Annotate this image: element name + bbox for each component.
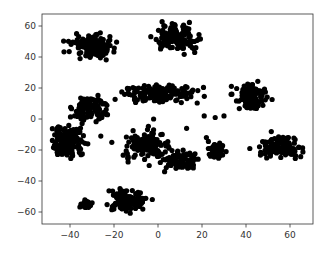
scatter-point: [135, 148, 140, 153]
scatter-point: [249, 85, 254, 90]
scatter-point: [206, 146, 211, 151]
scatter-point: [293, 137, 298, 142]
x-tick-label: 40: [240, 230, 252, 240]
scatter-point: [175, 148, 180, 153]
scatter-point: [119, 89, 124, 94]
scatter-point: [109, 140, 114, 145]
scatter-point: [263, 151, 268, 156]
scatter-point: [126, 206, 131, 211]
scatter-point: [145, 127, 150, 132]
scatter-point: [81, 117, 86, 122]
scatter-point: [75, 114, 80, 119]
scatter-point: [98, 30, 103, 35]
scatter-point: [93, 32, 98, 37]
scatter-point: [81, 133, 86, 138]
scatter-point: [62, 126, 67, 131]
scatter-point: [151, 127, 156, 132]
scatter-point: [246, 95, 251, 100]
scatter-point: [78, 152, 83, 157]
scatter-point: [278, 155, 283, 160]
scatter-point: [237, 106, 242, 111]
scatter-point: [152, 93, 157, 98]
scatter-point: [265, 95, 270, 100]
scatter-point: [131, 128, 136, 133]
scatter-point: [174, 29, 179, 34]
scatter-point: [244, 88, 249, 93]
scatter-point: [100, 37, 105, 42]
scatter-point: [61, 39, 66, 44]
scatter-point: [111, 207, 116, 212]
scatter-point: [78, 56, 83, 61]
scatter-point: [283, 144, 288, 149]
scatter-point: [224, 149, 229, 154]
scatter-point: [98, 113, 103, 118]
scatter-point: [153, 150, 158, 155]
scatter-point: [247, 146, 252, 151]
scatter-point: [158, 97, 163, 102]
scatter-point: [234, 86, 239, 91]
scatter-point: [79, 44, 84, 49]
scatter-point: [119, 206, 124, 211]
scatter-point: [58, 125, 63, 130]
scatter-point: [113, 97, 118, 102]
scatter-point: [195, 100, 200, 105]
scatter-point: [176, 36, 181, 41]
scatter-point: [221, 113, 226, 118]
scatter-point: [160, 19, 165, 24]
scatter-point: [142, 157, 147, 162]
scatter-point: [202, 94, 207, 99]
scatter-point: [133, 100, 138, 105]
scatter-point: [68, 114, 73, 119]
scatter-point: [80, 139, 85, 144]
scatter-point: [182, 88, 187, 93]
scatter-point: [107, 34, 112, 39]
scatter-point: [269, 137, 274, 142]
scatter-point: [213, 144, 218, 149]
scatter-point: [62, 149, 67, 154]
scatter-point: [98, 134, 103, 139]
scatter-point: [184, 126, 189, 131]
scatter-point: [181, 148, 186, 153]
scatter-point: [166, 144, 171, 149]
scatter-point: [234, 98, 239, 103]
x-tick-label: −40: [61, 230, 80, 240]
scatter-point: [142, 132, 147, 137]
scatter-point: [204, 135, 209, 140]
scatter-point: [105, 42, 110, 47]
y-tick-label: 60: [25, 21, 37, 31]
scatter-point: [127, 86, 132, 91]
scatter-point: [157, 89, 162, 94]
scatter-point: [270, 97, 275, 102]
scatter-point: [229, 84, 234, 89]
scatter-point: [186, 165, 191, 170]
scatter-point: [169, 148, 174, 153]
scatter-point: [85, 111, 90, 116]
scatter-point: [78, 50, 83, 55]
scatter-point: [182, 52, 187, 57]
scatter-point: [229, 92, 234, 97]
scatter-point: [300, 145, 305, 150]
scatter-point: [147, 163, 152, 168]
scatter-point: [150, 133, 155, 138]
scatter-point: [213, 115, 218, 120]
scatter-point: [129, 135, 134, 140]
scatter-point: [178, 157, 183, 162]
scatter-point: [202, 113, 207, 118]
scatter-point: [168, 25, 173, 30]
scatter-point: [140, 207, 145, 212]
scatter-point: [195, 88, 200, 93]
scatter-point: [71, 144, 76, 149]
scatter-point: [78, 201, 83, 206]
scatter-point: [239, 97, 244, 102]
scatter-point: [53, 146, 58, 151]
scatter-point: [126, 140, 131, 145]
scatter-point: [187, 20, 192, 25]
scatter-point: [96, 106, 101, 111]
scatter-point: [192, 39, 197, 44]
scatter-point: [257, 144, 262, 149]
scatter-point: [166, 162, 171, 167]
scatter-point: [66, 39, 71, 44]
scatter-point: [102, 110, 107, 115]
scatter-point: [263, 140, 268, 145]
scatter-point: [100, 101, 105, 106]
